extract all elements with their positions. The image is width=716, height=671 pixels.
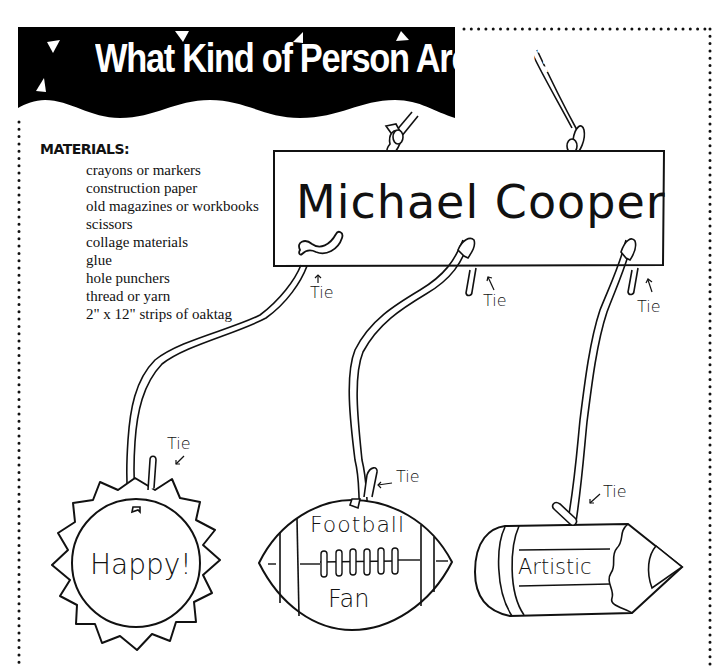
materials-item: glue bbox=[86, 251, 259, 269]
materials-item: thread or yarn bbox=[86, 287, 259, 305]
materials-item: old magazines or workbooks bbox=[86, 197, 259, 215]
football-label-bottom: Fan bbox=[328, 585, 370, 613]
football-label-top: Football bbox=[310, 512, 405, 537]
pencil-label: Artistic bbox=[518, 555, 592, 579]
materials-item: crayons or markers bbox=[86, 161, 259, 179]
materials-list: crayons or markers construction paper ol… bbox=[86, 161, 259, 323]
materials-item: construction paper bbox=[86, 179, 259, 197]
pencil-tie bbox=[553, 503, 577, 526]
tie-label: Tie bbox=[310, 283, 334, 302]
tie-label: Tie bbox=[483, 291, 507, 310]
tie-label: Tie bbox=[637, 297, 661, 316]
tie-label: Tie bbox=[603, 482, 627, 501]
sun-label: Happy! bbox=[90, 548, 192, 581]
materials-item: scissors bbox=[86, 215, 259, 233]
page-title: What Kind of Person Are You? bbox=[95, 36, 405, 81]
sign-name-text: Michael Cooper bbox=[296, 175, 666, 229]
materials-item: hole punchers bbox=[86, 269, 259, 287]
materials-item: collage materials bbox=[86, 233, 259, 251]
tie-label: Tie bbox=[167, 434, 191, 453]
tie-label: Tie bbox=[396, 467, 420, 486]
materials-heading: MATERIALS: bbox=[40, 141, 129, 157]
materials-item: 2" x 12" strips of oaktag bbox=[86, 305, 259, 323]
